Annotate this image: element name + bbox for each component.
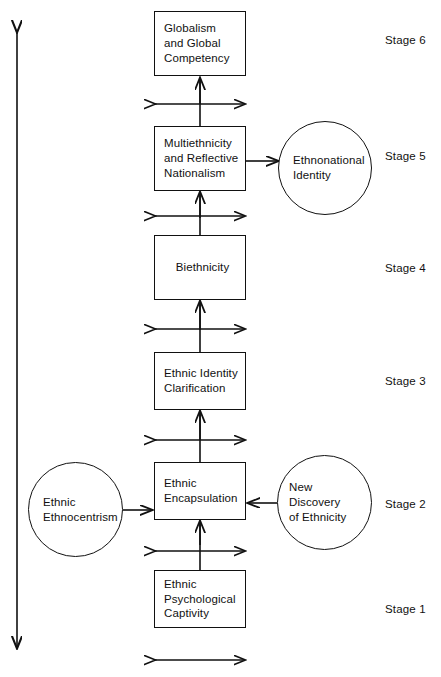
stage-label-4: Stage 4	[385, 262, 426, 274]
node-stage4-label: Biethnicity	[176, 260, 230, 275]
connector-stage3-to-stage4	[155, 301, 245, 352]
node-stage1-label: Ethnic Psychological Captivity	[164, 577, 236, 622]
connector-stage1-to-stage2	[155, 521, 245, 570]
connector-stage4-to-stage5	[155, 192, 245, 235]
node-stage6-box[interactable]: Globalism and Global Competency	[154, 11, 246, 76]
stage-label-6: Stage 6	[385, 34, 426, 46]
node-stage3-box[interactable]: Ethnic Identity Clarification	[154, 352, 246, 410]
node-stage2-box[interactable]: Ethnic Encapsulation	[154, 462, 246, 520]
node-stage6-label: Globalism and Global Competency	[164, 21, 230, 66]
node-ethnonational-identity-circle[interactable]: Ethnonational Identity	[278, 121, 372, 215]
node-stage4-box[interactable]: Biethnicity	[154, 235, 246, 300]
stage-label-5: Stage 5	[385, 150, 426, 162]
node-stage1-box[interactable]: Ethnic Psychological Captivity	[154, 570, 246, 628]
stage-label-1: Stage 1	[385, 603, 426, 615]
connector-stage2-to-stage3	[155, 411, 245, 462]
diagram-canvas: Globalism and Global Competency Multieth…	[0, 0, 441, 677]
stage-label-3: Stage 3	[385, 375, 426, 387]
node-ethnonational-identity-label: Ethnonational Identity	[293, 153, 365, 183]
node-stage5-label: Multiethnicity and Reflective Nationalis…	[164, 136, 238, 181]
node-new-discovery-label: New Discovery of Ethnicity	[289, 480, 363, 525]
node-ethnic-ethnocentrism-circle[interactable]: Ethnic Ethnocentrism	[28, 462, 123, 557]
node-new-discovery-circle[interactable]: New Discovery of Ethnicity	[277, 455, 372, 550]
connector-stage5-to-stage6	[155, 78, 245, 126]
node-stage3-label: Ethnic Identity Clarification	[164, 366, 238, 396]
stage-label-2: Stage 2	[385, 498, 426, 510]
node-stage5-box[interactable]: Multiethnicity and Reflective Nationalis…	[154, 126, 246, 191]
node-ethnic-ethnocentrism-label: Ethnic Ethnocentrism	[43, 495, 118, 525]
node-stage2-label: Ethnic Encapsulation	[164, 476, 238, 506]
